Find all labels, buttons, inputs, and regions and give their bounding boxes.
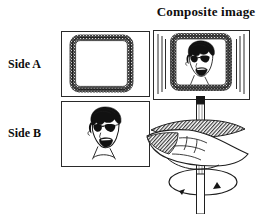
row-label-side-b: Side B <box>8 126 41 141</box>
stick-lower <box>197 174 205 214</box>
spinning-card-figure: Composite image Side A Side B <box>0 0 262 214</box>
side-a-frame-illustration <box>62 32 148 95</box>
motion-blur-left <box>158 34 166 94</box>
composite-illustration <box>154 31 248 98</box>
panel-side-a <box>61 31 150 97</box>
rotation-arrow-right <box>213 182 221 189</box>
side-b-face-illustration <box>62 102 148 165</box>
panel-side-b <box>61 101 150 167</box>
hand-and-stick-illustration <box>145 96 262 214</box>
motion-blur-right <box>237 34 245 94</box>
rotation-arrow-left <box>179 189 185 195</box>
row-label-side-a: Side A <box>8 57 41 72</box>
page-title: Composite image <box>150 4 262 20</box>
panel-composite <box>153 30 250 100</box>
